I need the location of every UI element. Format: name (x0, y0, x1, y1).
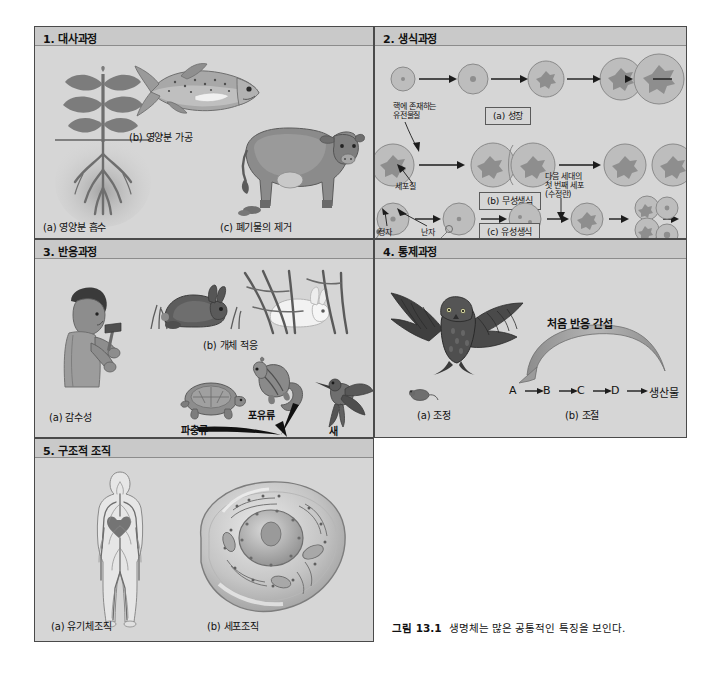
label-organism-organization: (a) 유기체조직 (51, 618, 111, 633)
label-adjustment: (a) 조정 (417, 407, 451, 422)
label-nutrient-absorption: (a) 영양분 흡수 (43, 219, 106, 234)
label-individual-adaptation: (b) 개체 적응 (203, 337, 258, 352)
panel-reproduction: 2. 생식과정 (374, 26, 687, 239)
figure-caption-text: 생명체는 많은 공통적인 특징을 보인다. (449, 622, 626, 634)
label-genetic-material-line1: 핵에 존재하는 (393, 102, 436, 111)
figure-caption-number: 그림 13.1 (392, 622, 442, 634)
figure-caption: 그림 13.1생명체는 많은 공통적인 특징을 보인다. (392, 620, 625, 635)
chain-node-a: A (509, 384, 516, 397)
person-illustration (51, 281, 131, 401)
label-growth: (a) 성장 (485, 107, 531, 125)
label-sexual-reproduction: (c) 유성생식 (479, 223, 540, 239)
panel-metabolism: 1. 대사과정 (34, 26, 374, 239)
rabbit-winter-illustration (237, 269, 353, 335)
human-body-illustration (79, 468, 161, 628)
panel-body: (a) 감수성 (35, 259, 373, 437)
panel-title: 1. 대사과정 (43, 30, 97, 46)
chain-node-product: 생산물 (649, 384, 678, 400)
chain-node-c: C (577, 384, 584, 397)
panel-title: 5. 구조적 조직 (43, 442, 111, 458)
panel-body: (a) 영양분 흡수 (35, 46, 373, 238)
growth-sequence (381, 52, 681, 106)
cytoplasm-pointer (397, 164, 419, 186)
label-bird: 새 (329, 423, 338, 438)
label-regulation: (b) 조절 (565, 407, 599, 422)
label-cell-organization: (b) 세포조직 (207, 618, 259, 633)
rabbit-summer-illustration (145, 273, 245, 333)
label-sensitivity: (a) 감수성 (49, 409, 92, 424)
chain-node-d: D (611, 384, 619, 397)
label-zygote-line2: 첫 번째 세포 (545, 181, 584, 190)
chain-node-b: B (543, 384, 550, 397)
label-genetic-material: 핵에 존재하는 유전물질 (393, 102, 457, 120)
label-zygote: 다음 세대의 첫 번째 세포 (수정란) (545, 172, 605, 199)
panel-body: (a) 조정 처음 반응 간섭 (375, 259, 686, 437)
panel-body: (a) 유기체조직 (35, 458, 373, 641)
label-feedback-inhibition: 처음 반응 간섭 (547, 315, 613, 331)
panel-responsiveness: 3. 반응과정 (34, 239, 374, 438)
panel-structural-organization: 5. 구조적 조직 (34, 438, 374, 642)
panel-title: 4. 통제과정 (383, 243, 437, 259)
figure-page: 1. 대사과정 (0, 0, 721, 679)
sperm-egg-pointers (383, 206, 443, 230)
daughter-cells (645, 196, 687, 239)
label-nutrient-processing: (b) 영양분 가공 (129, 129, 193, 144)
panel-body: 핵에 존재하는 유전물질 (a) 성장 (375, 46, 686, 238)
label-waste-removal: (c) 폐기물의 제거 (220, 219, 291, 234)
mouse-illustration (407, 386, 439, 404)
label-genetic-material-line2: 유전물질 (393, 111, 420, 120)
label-mammal: 포유류 (248, 407, 274, 422)
cell-illustration (187, 476, 353, 618)
cow-illustration (230, 102, 362, 220)
label-reptile: 파충류 (181, 422, 207, 437)
panel-control: 4. 통제과정 (374, 239, 687, 438)
panel-title: 2. 생식과정 (383, 30, 437, 46)
label-zygote-line1: 다음 세대의 (545, 172, 581, 181)
panel-title: 3. 반응과정 (43, 243, 97, 259)
asexual-reproduction-sequence (375, 136, 687, 194)
